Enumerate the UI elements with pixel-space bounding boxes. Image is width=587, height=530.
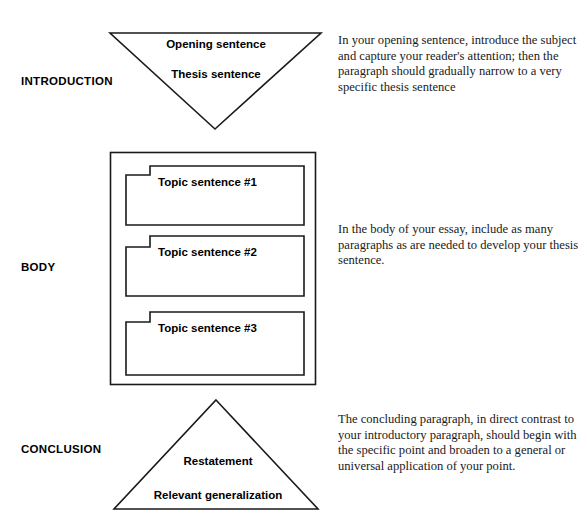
section-label-conclusion: CONCLUSION — [21, 443, 101, 455]
paragraph-box-2 — [126, 236, 304, 296]
topic-sentence-3-label: Topic sentence #3 — [158, 322, 257, 334]
introduction-note: In your opening sentence, introduce the … — [338, 33, 582, 95]
body-note: In the body of your essay, include as ma… — [338, 222, 582, 269]
conclusion-note: The concluding paragraph, in direct cont… — [338, 412, 582, 474]
opening-sentence-label: Opening sentence — [166, 38, 266, 50]
paragraph-box-1 — [126, 166, 304, 225]
section-label-body: BODY — [21, 261, 55, 273]
relevant-generalization-label: Relevant generalization — [154, 489, 282, 501]
thesis-sentence-label: Thesis sentence — [171, 68, 260, 80]
restatement-label: Restatement — [183, 455, 252, 467]
topic-sentence-2-label: Topic sentence #2 — [158, 246, 257, 258]
section-label-introduction: INTRODUCTION — [21, 75, 113, 87]
topic-sentence-1-label: Topic sentence #1 — [158, 176, 257, 188]
